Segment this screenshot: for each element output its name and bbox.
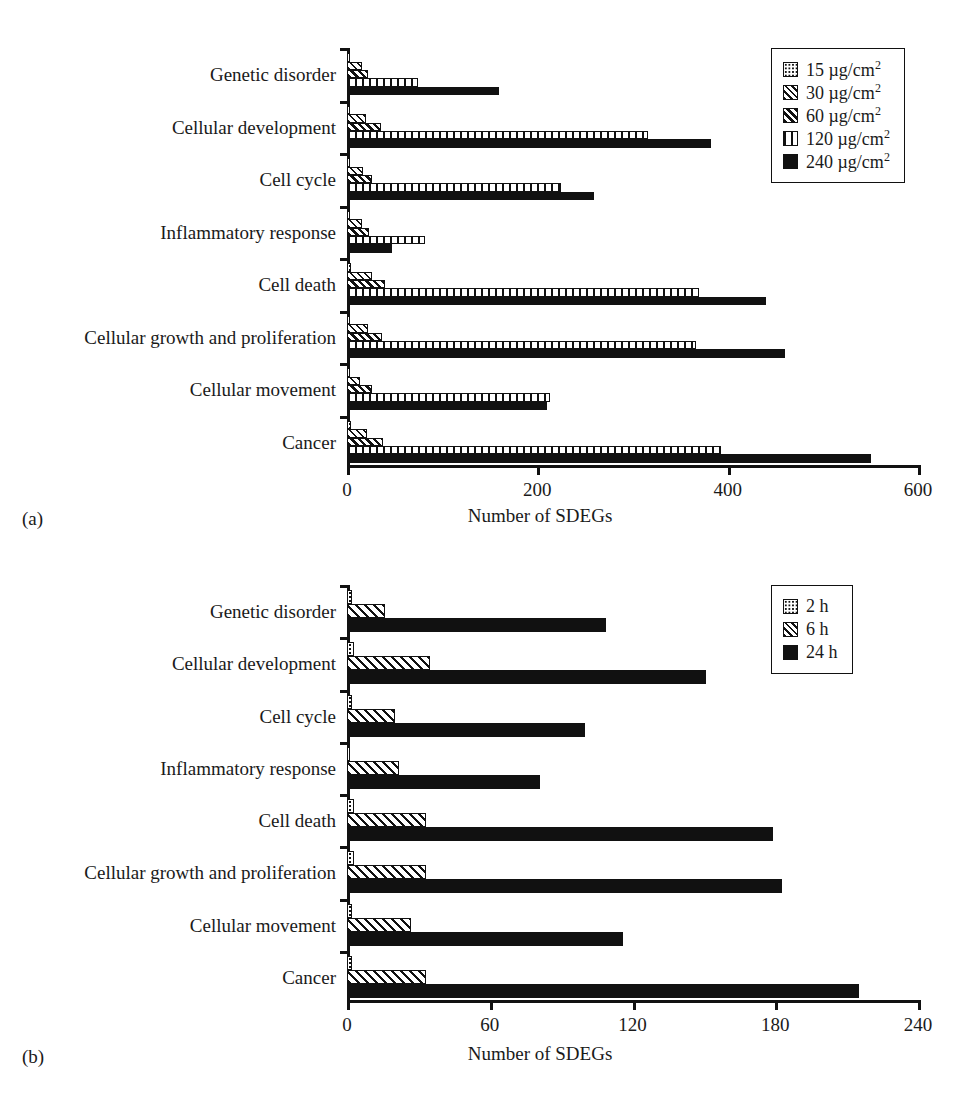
chart-a-bar: [347, 114, 366, 122]
chart-a-bar: [347, 131, 648, 139]
chart-b-y-tick: [340, 794, 347, 797]
chart-a-bar: [347, 272, 372, 280]
panel-tag-a: (a): [22, 508, 43, 530]
chart-a-x-tick-label: 600: [904, 479, 933, 501]
chart-b-legend-item: 24 h: [783, 641, 838, 664]
chart-b-legend-item: 6 h: [783, 618, 838, 641]
chart-b-x-tick-label: 0: [342, 1014, 352, 1036]
chart-a-y-tick: [340, 206, 347, 209]
x-axis-title-b: Number of SDEGs: [468, 1043, 613, 1065]
chart-b-bar: [347, 590, 352, 604]
chart-b-x-tick-label: 60: [480, 1014, 499, 1036]
chart-b-legend-item: 2 h: [783, 595, 838, 618]
chart-a-legend-label: 30 µg/cm2: [806, 81, 881, 104]
chart-b-y-tick: [340, 742, 347, 745]
chart-a-y-tick: [340, 258, 347, 261]
chart-b-bar: [347, 984, 859, 998]
chart-a-y-tick: [340, 311, 347, 314]
chart-a-bar: [347, 324, 368, 332]
chart-b-bar: [347, 879, 782, 893]
chart-b-bar: [347, 918, 411, 932]
chart-b-legend-swatch-icon: [783, 622, 798, 637]
chart-a-bar: [347, 87, 499, 95]
x-axis-title-a: Number of SDEGs: [468, 505, 613, 527]
chart-a-category-label: Cancer: [282, 432, 336, 451]
chart-a-bar: [347, 341, 696, 349]
chart-a-y-tick: [340, 153, 347, 156]
chart-b-x-tick-label: 120: [618, 1014, 647, 1036]
chart-b-bar: [347, 761, 399, 775]
chart-b-bar: [347, 642, 354, 656]
chart-a-y-tick: [340, 48, 347, 51]
chart-a-bar: [347, 349, 785, 357]
chart-b-bar: [347, 904, 352, 918]
chart-a-category-label: Cell cycle: [260, 170, 337, 189]
chart-a-legend-item: 120 µg/cm2: [783, 127, 890, 150]
chart-a-category-label: Cellular development: [172, 117, 336, 136]
chart-a-bar: [347, 280, 385, 288]
chart-b-category-label: Genetic disorder: [210, 602, 336, 621]
chart-a-bar: [347, 385, 372, 393]
chart-a-bar: [347, 139, 711, 147]
chart-b-x-tick-label: 180: [761, 1014, 790, 1036]
chart-b-y-tick: [340, 637, 347, 640]
chart-a-x-tick-label: 400: [713, 479, 742, 501]
chart-a-bar: [347, 219, 362, 227]
chart-a-legend-item: 60 µg/cm2: [783, 104, 890, 127]
chart-b-bar: [347, 604, 385, 618]
chart-b-category-label: Cellular development: [172, 654, 336, 673]
chart-a-x-tick-label: 0: [342, 479, 352, 501]
chart-b-bar: [347, 865, 426, 879]
chart-a-y-tick: [340, 101, 347, 104]
chart-b-bar: [347, 723, 585, 737]
chart-a-bar: [347, 236, 425, 244]
chart-a-bar: [347, 377, 360, 385]
panel-a: 0200400600Genetic disorderCellular devel…: [0, 0, 978, 545]
chart-a-x-tick-label: 200: [523, 479, 552, 501]
chart-b-bar: [347, 656, 430, 670]
chart-a-bar: [347, 297, 766, 305]
chart-a-legend-swatch-icon: [783, 131, 798, 146]
chart-a-category-label: Cellular growth and proliferation: [84, 327, 336, 346]
chart-a-legend-swatch-icon: [783, 85, 798, 100]
chart-b-x-tick: [633, 1002, 636, 1010]
chart-a-bar: [347, 70, 368, 78]
chart-b-y-tick: [340, 846, 347, 849]
chart-b-bar: [347, 970, 426, 984]
chart-a-legend-item: 30 µg/cm2: [783, 81, 890, 104]
chart-a-bar: [347, 429, 367, 437]
chart-a-x-tick: [918, 467, 921, 475]
chart-b-y-tick: [340, 899, 347, 902]
chart-a-bar: [347, 167, 363, 175]
x-axis-a: [347, 465, 921, 468]
chart-b-bar: [347, 709, 395, 723]
chart-a-legend-label: 15 µg/cm2: [806, 58, 881, 81]
chart-a-legend-label: 60 µg/cm2: [806, 104, 881, 127]
chart-b-category-label: Cell cycle: [260, 706, 337, 725]
chart-a-bar: [347, 393, 550, 401]
chart-a-bar: [347, 244, 392, 252]
chart-a-category-label: Inflammatory response: [160, 222, 336, 241]
chart-a-bar: [347, 438, 383, 446]
chart-a-bar: [347, 368, 350, 376]
chart-a-legend-swatch-icon: [783, 154, 798, 169]
chart-a-bar: [347, 421, 351, 429]
chart-a-bar: [347, 53, 350, 61]
chart-b-category-label: Cellular growth and proliferation: [84, 863, 336, 882]
chart-a-bar: [347, 446, 721, 454]
chart-b-legend-swatch-icon: [783, 645, 798, 660]
chart-b-bar: [347, 813, 426, 827]
chart-b-bar: [347, 956, 352, 970]
chart-a-bar: [347, 78, 418, 86]
chart-a-x-tick: [347, 467, 350, 475]
chart-b-bar: [347, 932, 623, 946]
chart-a-legend-item: 15 µg/cm2: [783, 58, 890, 81]
chart-b-bar: [347, 618, 606, 632]
chart-b-category-label: Cancer: [282, 967, 336, 986]
chart-a-y-tick: [340, 416, 347, 419]
chart-b-y-tick: [340, 951, 347, 954]
chart-a-bar: [347, 158, 350, 166]
chart-a-bar: [347, 192, 594, 200]
chart-b-category-label: Cellular movement: [190, 915, 336, 934]
chart-a-bar: [347, 106, 350, 114]
